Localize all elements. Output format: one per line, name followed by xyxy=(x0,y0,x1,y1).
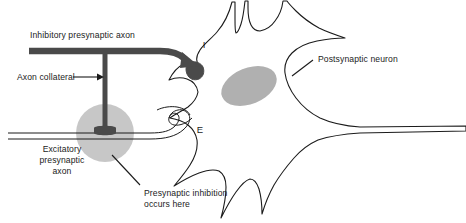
label-excitatory-synapse-marker: E xyxy=(197,124,203,135)
label-presynaptic-inhibition-line2: occurs here xyxy=(144,199,190,209)
presynaptic-inhibition-leader-line xyxy=(112,155,140,185)
presynaptic-inhibition-figure: Inhibitory presynaptic axon Axon collate… xyxy=(0,0,466,223)
postsynaptic-neuron-outline xyxy=(169,1,466,218)
label-excitatory-presynaptic-axon-line1: Excitatory xyxy=(43,144,82,154)
label-inhibitory-presynaptic-axon: Inhibitory presynaptic axon xyxy=(30,30,135,40)
label-presynaptic-inhibition-line1: Presynaptic inhibition xyxy=(144,188,228,198)
label-postsynaptic-neuron: Postsynaptic neuron xyxy=(318,54,398,64)
label-axon-collateral: Axon collateral xyxy=(17,72,75,82)
diagram-canvas: Inhibitory presynaptic axon Axon collate… xyxy=(0,0,466,223)
label-excitatory-presynaptic-axon-line3: axon xyxy=(52,166,71,176)
inhibitory-presynaptic-axon xyxy=(29,51,196,70)
label-excitatory-presynaptic-axon-line2: presynaptic xyxy=(39,155,85,165)
axon-collateral-terminal-foot xyxy=(94,126,116,136)
label-inhibitory-synapse-marker: I xyxy=(203,39,206,50)
postsynaptic-neuron-leader-line xyxy=(292,60,313,76)
